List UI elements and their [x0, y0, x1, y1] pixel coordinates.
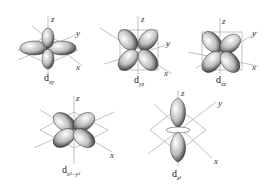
x-axis-label: x [251, 62, 256, 72]
y-axis-label: y [75, 28, 80, 38]
orbital-dx2-y2: z x dx²−y² [30, 92, 120, 188]
orbital-label: dxy [44, 72, 54, 85]
orbital-dz2: z y x dz² [140, 84, 230, 188]
z-axis-label: z [75, 93, 80, 103]
x-axis-label: x [75, 62, 80, 72]
x-axis-label: x [163, 68, 168, 78]
dx2y2-diagram: z x [30, 92, 120, 172]
x-axis-label: x [109, 150, 114, 160]
z-axis-label: z [140, 14, 145, 24]
orbital-label: dz² [172, 168, 181, 181]
z-axis-label: z [50, 14, 55, 24]
y-axis-label: y [165, 38, 170, 48]
orbital-dyz: z y x dyz [100, 8, 175, 88]
orbital-dxz: z y x dxz [186, 8, 261, 88]
x-axis-label: x [213, 156, 218, 166]
z-axis-label: z [180, 88, 185, 98]
dxy-diagram: z y x [10, 8, 85, 78]
dz2-diagram: z y x [140, 84, 230, 170]
dyz-diagram: z y x [100, 8, 175, 78]
orbital-label: dx²−y² [62, 164, 80, 177]
y-axis-label: y [217, 98, 222, 108]
z-axis-label: z [221, 16, 226, 26]
y-axis-label: y [251, 28, 256, 38]
orbital-dxy: z y x dxy [10, 8, 85, 88]
dxz-diagram: z y x [186, 8, 261, 78]
